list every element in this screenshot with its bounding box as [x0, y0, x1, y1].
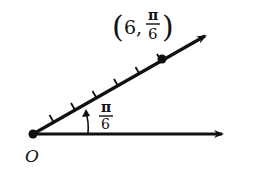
point-label-r: 6 — [124, 16, 136, 38]
terminal-ray — [33, 36, 205, 134]
origin-label: O — [25, 146, 39, 166]
polar-diagram: π 6 O ( 6 , π 6 ) — [0, 0, 256, 181]
arc-arrowhead-icon — [82, 109, 90, 117]
point-label-theta-denominator: 6 — [148, 25, 158, 43]
point-label-comma: , — [136, 16, 142, 38]
point-label: ( 6 , π 6 ) — [112, 7, 174, 44]
point-label-close-paren: ) — [162, 9, 174, 44]
angle-label-numerator: π — [101, 99, 111, 115]
angle-label-denominator: 6 — [101, 116, 110, 132]
point-label-open-paren: ( — [112, 9, 124, 44]
origin-point — [29, 130, 38, 139]
point-label-theta-numerator: π — [148, 7, 158, 23]
polar-point — [158, 55, 167, 64]
